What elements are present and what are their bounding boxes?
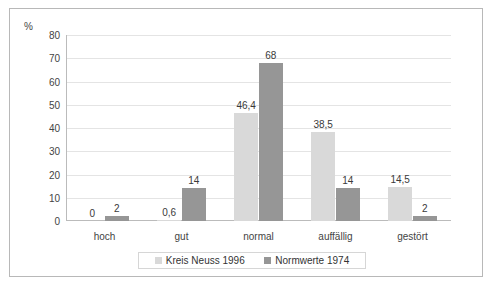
- x-axis-category-label: gut: [175, 231, 189, 242]
- plot-inner: 80706050403020100 02hoch0,614gut46,468no…: [66, 35, 451, 221]
- bar-value-label: 68: [265, 50, 276, 61]
- bar[interactable]: 14,5: [388, 187, 413, 221]
- bar-group: 38,514auffällig: [297, 35, 374, 221]
- bar-value-label: 46,4: [236, 100, 255, 111]
- bar[interactable]: 46,4: [234, 113, 259, 221]
- bar-value-label: 38,5: [313, 119, 332, 130]
- y-axis-tick: 40: [49, 123, 60, 134]
- bar-group: 0,614gut: [143, 35, 220, 221]
- legend-entry[interactable]: Normwerte 1974: [264, 255, 349, 266]
- bar-value-label: 0: [89, 208, 95, 219]
- y-axis-tick: 70: [49, 53, 60, 64]
- x-axis-category-label: hoch: [94, 231, 116, 242]
- bar-value-label: 14: [188, 175, 199, 186]
- y-axis-tick: 50: [49, 99, 60, 110]
- bar-group: 02hoch: [66, 35, 143, 221]
- bar-value-label: 2: [422, 203, 428, 214]
- bar-value-label: 2: [114, 203, 120, 214]
- bar-group: 14,52gestört: [374, 35, 451, 221]
- x-axis-category-label: normal: [243, 231, 274, 242]
- bar[interactable]: 38,5: [311, 132, 336, 222]
- bar-value-label: 14,5: [390, 174, 409, 185]
- y-axis-tick: 10: [49, 192, 60, 203]
- y-axis-tick: 0: [54, 216, 60, 227]
- bar[interactable]: 68: [259, 63, 284, 221]
- chart-frame: % 80706050403020100 02hoch0,614gut46,468…: [9, 8, 483, 277]
- bar[interactable]: 0,6: [157, 220, 182, 221]
- y-axis-tick: 80: [49, 30, 60, 41]
- x-axis-category-label: gestört: [397, 231, 428, 242]
- bar[interactable]: 2: [105, 216, 130, 221]
- y-axis-unit-label: %: [24, 21, 33, 32]
- legend-swatch-icon: [264, 257, 271, 264]
- bar[interactable]: 14: [336, 188, 361, 221]
- x-axis-category-label: auffällig: [318, 231, 352, 242]
- legend-label: Normwerte 1974: [275, 255, 349, 266]
- legend-label: Kreis Neuss 1996: [166, 255, 245, 266]
- bar-value-label: 0,6: [162, 207, 176, 218]
- legend-swatch-icon: [155, 257, 162, 264]
- bar[interactable]: 14: [182, 188, 207, 221]
- bar-group: 46,468normal: [220, 35, 297, 221]
- bar-value-label: 14: [342, 175, 353, 186]
- y-axis-tick: 60: [49, 76, 60, 87]
- plot-area: 80706050403020100 02hoch0,614gut46,468no…: [66, 35, 451, 221]
- bar[interactable]: 2: [413, 216, 438, 221]
- chart-legend: Kreis Neuss 1996Normwerte 1974: [138, 252, 366, 269]
- legend-entry[interactable]: Kreis Neuss 1996: [155, 255, 245, 266]
- y-axis-tick: 30: [49, 146, 60, 157]
- y-axis-tick: 20: [49, 169, 60, 180]
